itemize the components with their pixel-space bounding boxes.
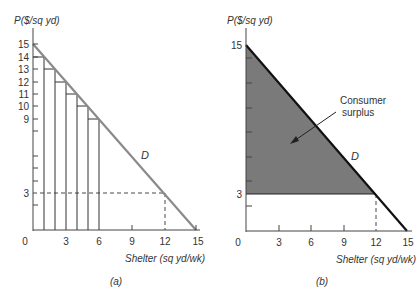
demand-curve-a bbox=[33, 44, 196, 230]
x-axis-label-b: Shelter (sq yd/wk) bbox=[336, 254, 416, 265]
svg-text:11: 11 bbox=[19, 89, 30, 100]
annotation-line2: surplus bbox=[342, 107, 374, 118]
caption-b: (b) bbox=[316, 276, 328, 287]
svg-text:9: 9 bbox=[129, 236, 135, 247]
x-axis-label-a: Shelter (sq yd/wk) bbox=[125, 253, 205, 264]
svg-text:0: 0 bbox=[235, 237, 241, 248]
y-tick-labels-b: 15 3 bbox=[231, 40, 243, 200]
svg-text:9: 9 bbox=[23, 114, 29, 125]
svg-text:14: 14 bbox=[18, 52, 30, 63]
y-axis-label-a: P($/sq yd) bbox=[14, 15, 60, 26]
svg-text:6: 6 bbox=[308, 237, 314, 248]
svg-text:6: 6 bbox=[96, 236, 102, 247]
svg-text:9: 9 bbox=[341, 237, 347, 248]
svg-text:15: 15 bbox=[18, 39, 30, 50]
annotation-line1: Consumer bbox=[340, 95, 387, 106]
axes-a bbox=[33, 28, 200, 231]
x-tick-labels-b: 0 3 6 9 12 15 bbox=[235, 237, 414, 248]
y-axis-label-b: P($/sq yd) bbox=[227, 15, 273, 26]
svg-text:3: 3 bbox=[63, 236, 69, 247]
svg-text:12: 12 bbox=[370, 237, 382, 248]
svg-text:3: 3 bbox=[236, 189, 242, 200]
demand-label-b: D bbox=[351, 150, 359, 162]
caption-a: (a) bbox=[110, 276, 122, 287]
svg-text:3: 3 bbox=[23, 188, 29, 199]
y-tick-labels-a: 15 14 13 12 11 10 9 3 bbox=[18, 39, 30, 199]
figure: P($/sq yd) 15 14 13 12 11 10 9 3 0 3 6 9… bbox=[0, 0, 416, 302]
demand-label-a: D bbox=[141, 149, 149, 161]
svg-text:15: 15 bbox=[231, 40, 243, 51]
panel-b: P($/sq yd) 15 3 0 3 6 9 12 15 Shelter (s… bbox=[227, 15, 416, 287]
x-tick-labels-a: 0 3 6 9 12 15 bbox=[22, 236, 204, 247]
svg-text:12: 12 bbox=[159, 236, 171, 247]
svg-text:0: 0 bbox=[22, 236, 28, 247]
panel-a: P($/sq yd) 15 14 13 12 11 10 9 3 0 3 6 9… bbox=[14, 15, 205, 287]
svg-text:3: 3 bbox=[276, 237, 282, 248]
svg-text:15: 15 bbox=[402, 237, 414, 248]
svg-text:15: 15 bbox=[192, 236, 204, 247]
svg-text:12: 12 bbox=[18, 77, 30, 88]
svg-text:10: 10 bbox=[18, 101, 30, 112]
svg-text:13: 13 bbox=[18, 64, 30, 75]
